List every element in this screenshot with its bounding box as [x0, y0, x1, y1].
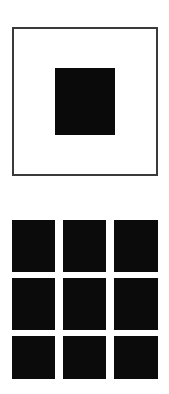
framed-square-figure — [12, 27, 158, 176]
grid-cell-r3c1 — [12, 336, 55, 379]
grid-cell-r1c2 — [63, 220, 106, 272]
grid-cell-r2c2 — [63, 278, 106, 330]
grid-cell-r3c3 — [114, 336, 158, 379]
square-grid-figure — [12, 220, 158, 379]
inner-black-square — [55, 68, 115, 135]
grid-cell-r3c2 — [63, 336, 106, 379]
grid-cell-r2c3 — [114, 278, 158, 330]
grid-cell-r1c1 — [12, 220, 55, 272]
figure-canvas — [0, 0, 169, 394]
grid-cell-r2c1 — [12, 278, 55, 330]
grid-cell-r1c3 — [114, 220, 158, 272]
